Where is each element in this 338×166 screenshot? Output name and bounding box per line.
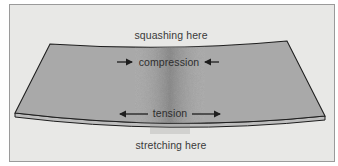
squashing-label: squashing here [134,29,207,41]
compression-label: compression [139,56,200,68]
tension-label: tension [153,107,188,119]
stretching-label: stretching here [136,139,207,151]
